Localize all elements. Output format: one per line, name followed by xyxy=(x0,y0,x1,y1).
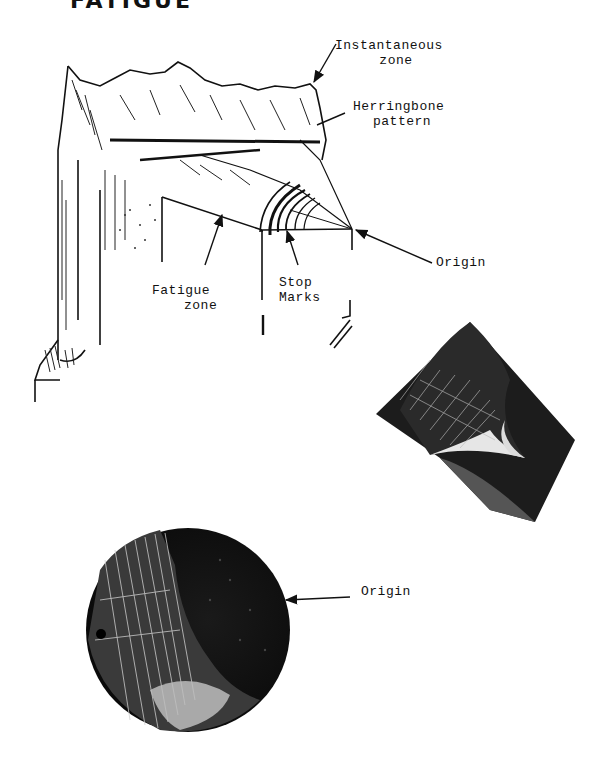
instantaneous-label-line2: zone xyxy=(335,53,443,68)
fatigue-label-line1: Fatigue xyxy=(152,283,217,298)
fatigue-zone-label: Fatigue zone xyxy=(152,283,217,313)
instantaneous-zone-label: Instantaneous zone xyxy=(335,38,443,68)
herringbone-label-line2: pattern xyxy=(353,114,444,129)
stop-label-line2: Marks xyxy=(279,290,321,305)
bar-sketch xyxy=(35,62,352,402)
fatigue-label-line2: zone xyxy=(152,298,217,313)
instantaneous-label-line1: Instantaneous xyxy=(335,38,443,53)
photo-round xyxy=(86,528,290,732)
stop-marks-label: Stop Marks xyxy=(279,275,321,305)
herringbone-label-line1: Herringbone xyxy=(353,99,444,114)
fatigue-zone-arrow xyxy=(205,215,222,265)
stop-marks-arrow xyxy=(287,231,298,265)
stop-label-line1: Stop xyxy=(279,275,321,290)
origin-arrow xyxy=(356,230,432,263)
round-origin-label: Origin xyxy=(361,584,411,599)
instantaneous-zone-arrow xyxy=(314,44,336,82)
fracture-diagram xyxy=(0,0,613,777)
origin-label: Origin xyxy=(436,255,486,270)
round-origin-arrow xyxy=(286,597,350,600)
herringbone-pattern-label: Herringbone pattern xyxy=(353,99,444,129)
photo-square xyxy=(376,322,575,522)
